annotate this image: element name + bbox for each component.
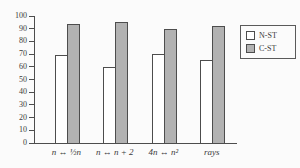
bar-group (92, 22, 141, 143)
legend-item-n-st: N-ST (246, 31, 291, 40)
y-tick-label: 80 (7, 36, 27, 46)
x-axis-labels: n ↔ ½nn ↔ n + 24n ↔ n²rays (34, 147, 236, 157)
n-st-swatch (246, 31, 255, 40)
c-st-swatch (246, 44, 255, 53)
y-tick-label: 30 (7, 100, 27, 110)
y-tick-label: 60 (7, 62, 27, 72)
legend-item-c-st: C-ST (246, 44, 291, 53)
bar-c-st-2 (115, 22, 128, 143)
y-tick-label: 40 (7, 87, 27, 97)
y-tick-label: 90 (7, 24, 27, 34)
legend: N-ST C-ST (240, 25, 296, 59)
y-tick-label: 100 (7, 11, 27, 21)
y-tick-label: 20 (7, 113, 27, 123)
y-tick-label: 0 (7, 138, 27, 148)
x-category-label: n ↔ ½n (42, 147, 91, 157)
plot-area: 0102030405060708090100 (34, 16, 237, 144)
bar-chart-figure: 0102030405060708090100 n ↔ ½nn ↔ n + 24n… (0, 0, 300, 168)
bar-c-st-1 (67, 24, 80, 143)
bar-c-st-3 (164, 29, 177, 143)
x-category-label: n ↔ n + 2 (91, 147, 140, 157)
bar-group (140, 29, 189, 143)
y-tick-label: 70 (7, 49, 27, 59)
x-category-label: 4n ↔ n² (139, 147, 188, 157)
bar-c-st-4 (212, 26, 225, 143)
legend-label-c-st: C-ST (259, 44, 276, 53)
legend-label-n-st: N-ST (259, 31, 277, 40)
x-category-label: rays (188, 147, 237, 157)
y-tick-label: 50 (7, 75, 27, 85)
bar-group (189, 26, 238, 143)
bar-groups (35, 16, 237, 143)
bar-group (43, 24, 92, 143)
y-tick-label: 10 (7, 125, 27, 135)
